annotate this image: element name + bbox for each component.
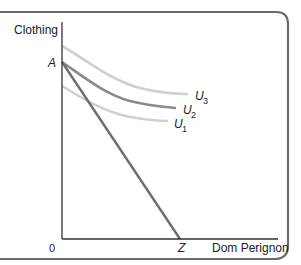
svg-text:3: 3 bbox=[203, 96, 208, 106]
origin-label: 0 bbox=[49, 242, 55, 254]
point-z-label: Z bbox=[177, 241, 186, 255]
indifference-curve-u2 bbox=[62, 62, 176, 108]
svg-text:2: 2 bbox=[191, 110, 196, 120]
u1-label: U 1 bbox=[174, 117, 187, 134]
indifference-curve-diagram: Clothing A 0 Z Dom Perignon U 3 U 2 U 1 bbox=[0, 0, 301, 265]
frame-border bbox=[0, 12, 288, 259]
budget-line bbox=[62, 62, 180, 239]
y-axis-label: Clothing bbox=[14, 23, 58, 37]
indifference-curve-u3 bbox=[62, 46, 188, 94]
x-axis-label: Dom Perignon bbox=[212, 241, 289, 255]
u2-label: U 2 bbox=[183, 103, 196, 120]
u3-label: U 3 bbox=[195, 89, 208, 106]
point-a-label: A bbox=[47, 56, 56, 70]
svg-text:1: 1 bbox=[182, 124, 187, 134]
